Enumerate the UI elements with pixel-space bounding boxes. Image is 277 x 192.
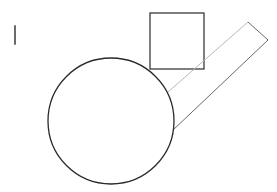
square-shape [150, 13, 204, 69]
circle-shape [48, 58, 174, 184]
rectangle-bottom-edge [172, 40, 268, 131]
rectangle-top-edge [168, 22, 248, 92]
rectangle-end-edge [248, 22, 268, 40]
diagram-svg [0, 0, 277, 192]
diagram-canvas [0, 0, 277, 192]
